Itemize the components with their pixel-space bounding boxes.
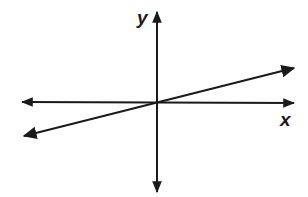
x-axis-label: x [280, 110, 291, 129]
y-axis-label: y [137, 8, 148, 27]
coordinate-plane: y x [0, 0, 308, 197]
